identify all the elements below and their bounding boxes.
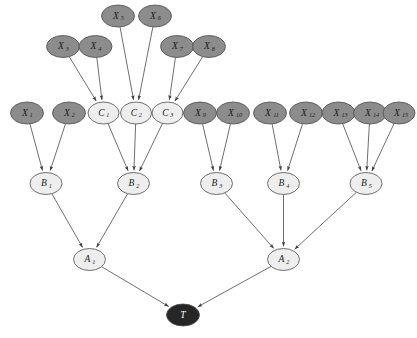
edge-x1-to-b1 <box>30 124 43 171</box>
node-b1[interactable]: B1 <box>30 173 62 195</box>
node-b4[interactable]: B4 <box>268 173 300 195</box>
node-b3[interactable]: B3 <box>201 173 233 195</box>
node-t[interactable]: T <box>167 304 200 326</box>
node-layer: X5X6X3X4X7X8X1X2C1C2C3X9X10X11X12X13X14X… <box>11 5 416 326</box>
edge-a2-to-t <box>198 266 271 306</box>
node-shape-x12 <box>290 102 323 124</box>
node-shape-x6 <box>139 5 172 27</box>
node-shape-a1 <box>74 249 106 271</box>
node-shape-a2 <box>268 249 300 271</box>
node-shape-x7 <box>161 36 194 58</box>
node-x15[interactable]: X15 <box>383 102 415 124</box>
dag-canvas: X5X6X3X4X7X8X1X2C1C2C3X9X10X11X12X13X14X… <box>0 0 417 338</box>
edge-c3-to-b2 <box>140 123 163 171</box>
node-shape-b5 <box>350 173 382 195</box>
node-shape-x4 <box>79 36 112 58</box>
edge-x2-to-b1 <box>50 124 65 171</box>
node-c2[interactable]: C2 <box>121 102 152 124</box>
node-x9[interactable]: X9 <box>184 102 217 124</box>
node-b2[interactable]: B2 <box>118 173 150 195</box>
node-x10[interactable]: X10 <box>217 102 250 124</box>
edge-x14-to-b5 <box>367 124 370 170</box>
dag-figure: X5X6X3X4X7X8X1X2C1C2C3X9X10X11X12X13X14X… <box>0 0 417 338</box>
node-shape-b4 <box>268 173 300 195</box>
edge-x15-to-b5 <box>372 123 394 171</box>
node-x2[interactable]: X2 <box>53 102 86 124</box>
node-shape-c2 <box>121 102 152 124</box>
edge-a1-to-t <box>102 267 169 307</box>
edge-x5-to-c2 <box>120 27 134 100</box>
node-shape-c3 <box>152 102 183 124</box>
edge-b2-to-a1 <box>97 194 128 248</box>
node-x11[interactable]: X11 <box>254 102 287 124</box>
edge-x10-to-b3 <box>220 124 231 171</box>
node-x1[interactable]: X1 <box>11 102 44 124</box>
node-shape-x13 <box>322 102 355 124</box>
edge-x4-to-c1 <box>97 57 102 99</box>
node-x14[interactable]: X14 <box>354 102 387 124</box>
node-shape-t <box>167 304 200 326</box>
edge-b5-to-a2 <box>295 192 357 249</box>
node-shape-b1 <box>30 173 62 195</box>
edge-b3-to-a2 <box>225 193 274 248</box>
node-shape-b3 <box>201 173 233 195</box>
node-shape-x1 <box>11 102 44 124</box>
node-shape-x10 <box>217 102 250 124</box>
node-a2[interactable]: A2 <box>268 249 300 271</box>
node-x3[interactable]: X3 <box>47 36 80 58</box>
node-x7[interactable]: X7 <box>161 36 194 58</box>
node-shape-b2 <box>118 173 150 195</box>
node-c3[interactable]: C3 <box>152 102 183 124</box>
node-shape-x15 <box>383 102 415 124</box>
node-x5[interactable]: X5 <box>102 5 135 27</box>
node-x4[interactable]: X4 <box>79 36 112 58</box>
node-b5[interactable]: B5 <box>350 173 382 195</box>
edge-c1-to-b2 <box>108 124 128 171</box>
node-shape-x9 <box>184 102 217 124</box>
edge-x7-to-c3 <box>169 57 175 99</box>
edge-x12-to-b4 <box>288 124 303 171</box>
node-shape-x5 <box>102 5 135 27</box>
node-shape-c1 <box>88 102 119 124</box>
node-c1[interactable]: C1 <box>88 102 119 124</box>
edge-x9-to-b3 <box>203 124 214 171</box>
edge-b1-to-a1 <box>52 194 83 248</box>
node-shape-x8 <box>193 36 226 58</box>
node-shape-x11 <box>254 102 287 124</box>
edge-x8-to-c3 <box>175 57 203 101</box>
node-x12[interactable]: X12 <box>290 102 323 124</box>
node-shape-x14 <box>354 102 387 124</box>
node-x8[interactable]: X8 <box>193 36 226 58</box>
node-shape-x2 <box>53 102 86 124</box>
edge-x11-to-b4 <box>272 124 281 171</box>
node-x6[interactable]: X6 <box>139 5 172 27</box>
edge-x3-to-c1 <box>69 57 96 101</box>
node-a1[interactable]: A1 <box>74 249 106 271</box>
node-shape-x3 <box>47 36 80 58</box>
edge-x6-to-c2 <box>139 27 153 100</box>
node-x13[interactable]: X13 <box>322 102 355 124</box>
edge-c2-to-b2 <box>134 124 136 170</box>
edge-x13-to-b5 <box>343 124 361 171</box>
